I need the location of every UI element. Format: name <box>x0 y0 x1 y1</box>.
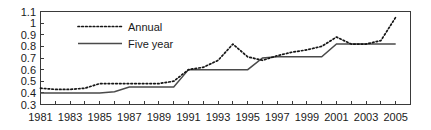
x-tick-label: 1983 <box>58 111 82 123</box>
legend-item-annual: Annual <box>78 21 162 33</box>
plot-area-frame <box>41 12 411 105</box>
line-chart: 0.30.40.50.60.70.80.911.1 19811983198519… <box>0 0 431 130</box>
x-tick-label: 2005 <box>383 111 407 123</box>
x-tick-label: 1993 <box>206 111 230 123</box>
x-tick-label: 1995 <box>235 111 259 123</box>
series-line-annual <box>41 17 396 89</box>
y-tick-label: 0.5 <box>21 75 36 87</box>
x-tick-label: 1999 <box>295 111 319 123</box>
x-tick-label: 1985 <box>87 111 111 123</box>
x-tick-label: 1991 <box>176 111 200 123</box>
y-tick-label: 0.3 <box>21 99 36 111</box>
y-tick-label: 0.8 <box>21 40 36 52</box>
y-tick-label: 1.1 <box>21 6 36 18</box>
legend-item-five-year: Five year <box>78 38 174 50</box>
y-tick-label: 1 <box>30 17 36 29</box>
x-axis-tick-labels: 1981198319851987198919911993199519971999… <box>28 111 408 123</box>
chart-legend: Annual Five year <box>78 21 174 50</box>
x-tick-label: 1987 <box>117 111 141 123</box>
y-tick-label: 0.9 <box>21 29 36 41</box>
y-tick-label: 0.7 <box>21 52 36 64</box>
x-tick-label: 2001 <box>324 111 348 123</box>
chart-canvas: 0.30.40.50.60.70.80.911.1 19811983198519… <box>0 0 431 130</box>
y-tick-label: 0.6 <box>21 64 36 76</box>
y-axis-tick-labels: 0.30.40.50.60.70.80.911.1 <box>21 6 36 111</box>
y-tick-label: 0.4 <box>21 87 36 99</box>
legend-label-annual: Annual <box>128 21 162 33</box>
x-tick-label: 1989 <box>147 111 171 123</box>
legend-label-five-year: Five year <box>128 38 174 50</box>
x-tick-label: 1997 <box>265 111 289 123</box>
x-tick-label: 2003 <box>354 111 378 123</box>
x-axis-tick-marks <box>41 101 411 105</box>
x-tick-label: 1981 <box>28 111 52 123</box>
